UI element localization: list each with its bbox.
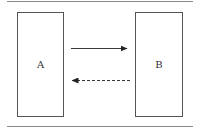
diagram-canvas: A B bbox=[0, 0, 206, 131]
node-a-label: A bbox=[36, 59, 45, 70]
node-b: B bbox=[136, 13, 183, 117]
node-b-label: B bbox=[155, 59, 162, 70]
node-a: A bbox=[18, 13, 64, 117]
